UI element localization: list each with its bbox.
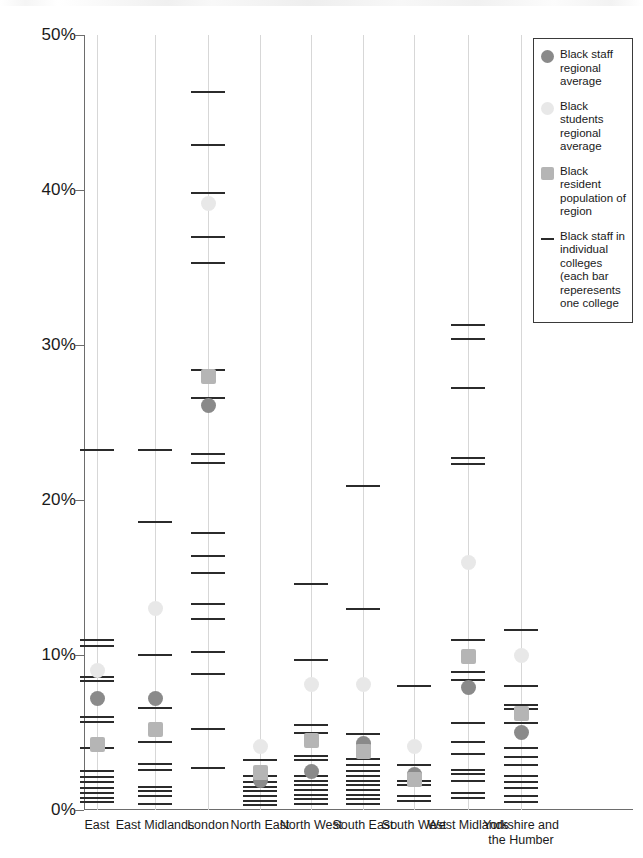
y-axis-line [84,35,85,810]
college-tick [451,792,485,794]
college-tick [138,769,172,771]
y-tick-label: 10% [8,645,76,665]
y-tick-label: 0% [8,800,76,820]
college-tick [504,685,538,687]
college-tick [346,794,380,796]
college-tick [243,804,277,806]
top-crop-artifact [0,0,643,6]
marker-black-staff-regional-average [90,691,105,706]
college-tick [294,789,328,791]
college-tick [451,324,485,326]
college-tick [504,775,538,777]
y-tick-label: 30% [8,335,76,355]
gridline [414,35,415,810]
legend-item[interactable]: Black staff regional average [541,48,626,89]
college-tick [138,803,172,805]
gridline [260,35,261,810]
college-tick [243,795,277,797]
marker-black-resident-population-of-region [461,649,476,664]
college-tick [191,192,225,194]
college-tick [346,764,380,766]
college-tick [80,797,114,799]
college-tick [294,583,328,585]
college-tick [451,753,485,755]
college-tick [138,763,172,765]
y-tick-mark [75,345,84,346]
gridline [521,35,522,810]
marker-black-students-regional-average [253,739,268,754]
college-tick [504,787,538,789]
college-tick [138,521,172,523]
legend-circle-icon [541,50,554,63]
college-tick [191,532,225,534]
college-tick [80,787,114,789]
legend-square-icon [541,167,554,180]
college-tick [504,801,538,803]
y-axis-labels: 0%10%20%30%40%50% [0,35,76,810]
college-tick [451,671,485,673]
college-tick [504,795,538,797]
college-tick [294,759,328,761]
college-tick [397,764,431,766]
college-tick [294,794,328,796]
college-tick [346,803,380,805]
college-tick [80,801,114,803]
college-tick [346,733,380,735]
college-tick [191,236,225,238]
gridline [311,35,312,810]
y-tick-mark [75,190,84,191]
college-tick [451,457,485,459]
legend-item[interactable]: Black resident population of region [541,165,626,219]
marker-black-students-regional-average [90,663,105,678]
college-tick [294,780,328,782]
marker-black-staff-regional-average [201,398,216,413]
college-tick [80,645,114,647]
college-tick [191,555,225,557]
college-tick [451,387,485,389]
legend-circle-icon [541,102,554,115]
college-tick [191,144,225,146]
legend-item-label: Black resident population of region [560,165,626,219]
college-tick [80,639,114,641]
college-tick [191,572,225,574]
college-tick [138,654,172,656]
college-tick [397,795,431,797]
college-tick [191,462,225,464]
college-tick [451,797,485,799]
college-tick [243,800,277,802]
marker-black-staff-regional-average [514,725,529,740]
y-tick-mark [75,655,84,656]
college-tick [191,673,225,675]
legend-item[interactable]: Black students regional average [541,100,626,154]
college-tick [346,608,380,610]
x-axis-label: Yorkshire and the Humber [473,818,569,847]
college-tick [504,781,538,783]
college-tick [191,728,225,730]
gridline [363,35,364,810]
college-tick [346,780,380,782]
college-tick [504,756,538,758]
college-tick [191,262,225,264]
college-tick [294,798,328,800]
college-tick [191,453,225,455]
college-tick [294,724,328,726]
college-tick [138,449,172,451]
y-tick-label: 40% [8,180,76,200]
marker-black-resident-population-of-region [356,744,371,759]
y-tick-mark [75,810,84,811]
college-tick [504,747,538,749]
marker-black-staff-regional-average [148,691,163,706]
college-tick [80,792,114,794]
college-tick [191,767,225,769]
x-axis-line [84,809,633,810]
legend-item[interactable]: Black staff in individual colleges (each… [541,230,626,311]
college-tick [451,722,485,724]
y-tick-mark [75,35,84,36]
marker-black-students-regional-average [407,739,422,754]
chart-root: 0%10%20%30%40%50% EastEast MidlandsLondo… [0,0,643,858]
legend-line-icon [541,232,554,245]
college-tick [191,618,225,620]
marker-black-students-regional-average [356,677,371,692]
college-tick [346,789,380,791]
marker-black-students-regional-average [461,555,476,570]
